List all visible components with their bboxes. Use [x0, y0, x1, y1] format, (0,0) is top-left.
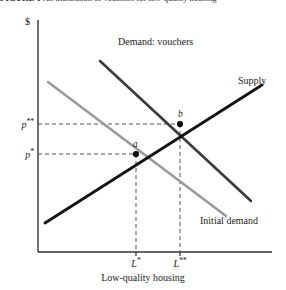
guide-lines-group	[38, 124, 180, 252]
y-tick-label-p2: p**	[12, 117, 34, 130]
curve-initial-demand	[48, 82, 226, 216]
x-tick-label-l1: L*	[122, 256, 150, 269]
y-axis-label: $	[25, 16, 30, 27]
equilibrium-point-a	[133, 151, 139, 157]
curve-label-initial-demand: Initial demand	[200, 215, 258, 226]
curve-demand-vouchers	[100, 61, 251, 201]
equilibrium-point-b	[177, 121, 183, 127]
point-label-a: a	[133, 139, 138, 149]
x-axis-title: Low-quality housing	[0, 272, 286, 283]
y-tick-label-p1: p*	[12, 147, 34, 160]
x-tick-label-l2: L**	[163, 256, 197, 269]
point-label-b: b	[178, 109, 183, 119]
supply-demand-chart: $ Demand: vouchers Supply Initial demand…	[0, 0, 286, 290]
curve-label-supply: Supply	[238, 75, 266, 86]
curve-label-demand-vouchers: Demand: vouchers	[118, 36, 193, 47]
